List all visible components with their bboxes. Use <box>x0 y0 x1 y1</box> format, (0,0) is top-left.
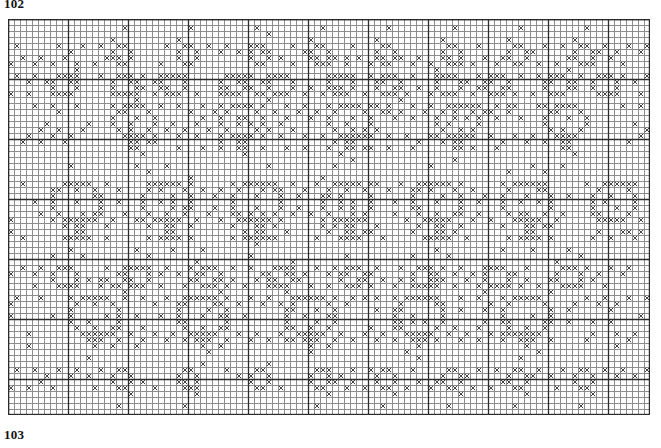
chart-page: 102 103 <box>0 0 661 448</box>
filet-crochet-chart <box>8 19 650 415</box>
page-number-bottom: 103 <box>4 428 24 441</box>
page-number-top: 102 <box>4 0 24 10</box>
chart-grid-canvas <box>8 19 650 415</box>
